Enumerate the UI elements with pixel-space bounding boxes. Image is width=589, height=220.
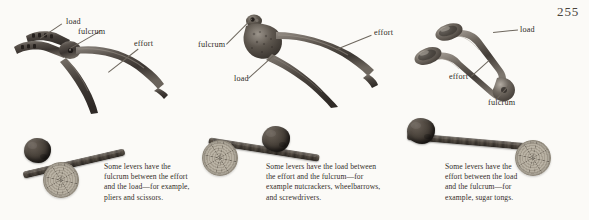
panel-second-class-lever: fulcrum load effort Some levers have the…	[196, 0, 392, 220]
log-rings	[203, 141, 237, 175]
caption-line: and the load—for example,	[104, 182, 196, 192]
caption-line: fulcrum between the effort	[104, 172, 196, 182]
label-load: load	[520, 25, 535, 34]
caption-line: and screwdrivers.	[266, 193, 392, 203]
lever-load-rock	[407, 118, 435, 144]
lever-load-rock	[262, 126, 290, 152]
label-effort: effort	[449, 72, 468, 81]
lever-load-rock	[24, 138, 51, 163]
label-load: load	[66, 17, 81, 26]
caption-third-class-lever: Some levers have the effort between the …	[445, 162, 543, 203]
caption-line: Some levers have the load between	[266, 162, 392, 172]
caption-first-class-lever: Some levers have the fulcrum between the…	[104, 162, 196, 203]
label-effort: effort	[374, 28, 393, 37]
lever-diagram-page: 255	[0, 0, 589, 220]
lever-fulcrum-log	[202, 140, 238, 176]
caption-second-class-lever: Some levers have the load between the ef…	[266, 162, 392, 203]
panel-first-class-lever: load fulcrum effort Some levers have the…	[0, 0, 196, 220]
caption-line: effort between the load	[445, 172, 543, 182]
label-fulcrum: fulcrum	[198, 40, 225, 49]
caption-line: the effort and the fulcrum—for	[266, 172, 392, 182]
log-rings	[44, 163, 78, 197]
label-effort: effort	[134, 39, 153, 48]
label-fulcrum: fulcrum	[488, 98, 515, 107]
label-fulcrum: fulcrum	[78, 27, 105, 36]
caption-line: and the fulcrum—for	[445, 182, 543, 192]
caption-line: example nutcrackers, wheelbarrows,	[266, 182, 392, 192]
panel-third-class-lever: load effort fulcrum Some levers have the…	[393, 0, 589, 220]
label-load: load	[234, 74, 249, 83]
caption-line: pliers and scissors.	[104, 193, 196, 203]
caption-line: Some levers have the	[445, 162, 543, 172]
nutcracker-photo	[228, 8, 398, 108]
caption-line: Some levers have the	[104, 162, 196, 172]
caption-line: example, sugar tongs.	[445, 193, 543, 203]
lever-fulcrum-log	[43, 162, 79, 198]
